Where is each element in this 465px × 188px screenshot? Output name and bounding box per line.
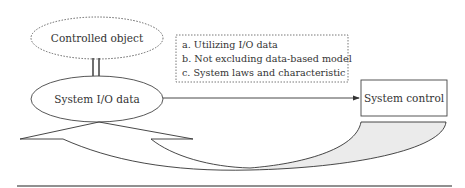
feedback-arrow-head: [20, 122, 193, 139]
double-line-connector: [93, 58, 99, 76]
system-io-data-node: System I/O data: [31, 76, 163, 122]
controlled-object-node: Controlled object: [31, 17, 163, 59]
note-box: a. Utilizing I/O data b. Not excluding d…: [176, 35, 352, 82]
note-item-b: b. Not excluding data-based model: [182, 53, 352, 64]
note-item-a: a. Utilizing I/O data: [182, 39, 278, 50]
note-item-c: c. System laws and characteristic: [182, 67, 346, 78]
controlled-object-label: Controlled object: [51, 32, 144, 44]
system-control-label: System control: [364, 92, 445, 104]
system-io-data-label: System I/O data: [54, 93, 139, 105]
io-control-diagram: Controlled object System I/O data a. Uti…: [0, 0, 465, 188]
feedback-arrow: [20, 122, 446, 170]
system-control-node: System control: [361, 80, 447, 116]
